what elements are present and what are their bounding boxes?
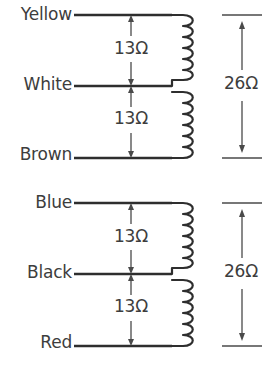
- coil-upper: [172, 203, 193, 274]
- lead-label-bottom: Brown: [0, 146, 72, 163]
- bracket-arrowhead-bottom: [239, 145, 245, 153]
- resistance-label-lower: 13Ω: [104, 110, 158, 127]
- resistance-label-upper: 13Ω: [104, 228, 158, 245]
- coil-lower: [172, 92, 193, 158]
- bracket-arrowhead-bottom: [239, 333, 245, 341]
- coil-group-blue-black-red: Blue Black Red 13Ω 13Ω 26Ω: [0, 188, 273, 363]
- bracket-arrowhead-top: [239, 21, 245, 29]
- coil-upper: [172, 15, 193, 86]
- resistance-label-total: 26Ω: [212, 75, 270, 92]
- lead-label-center-tap: Black: [0, 264, 72, 281]
- resistance-label-lower: 13Ω: [104, 298, 158, 315]
- bracket-arrowhead-top: [239, 209, 245, 217]
- coil-group-yellow-white-brown: Yellow White Brown 13Ω 13Ω 26Ω: [0, 0, 273, 175]
- resistance-label-upper: 13Ω: [104, 40, 158, 57]
- resistance-label-total: 26Ω: [212, 263, 270, 280]
- lead-label-bottom: Red: [0, 334, 72, 351]
- coil-lower: [172, 280, 193, 346]
- lead-label-top: Yellow: [0, 6, 72, 23]
- coil-resistance-diagram: Yellow White Brown 13Ω 13Ω 26Ω: [0, 0, 273, 369]
- lead-label-top: Blue: [0, 194, 72, 211]
- lead-label-center-tap: White: [0, 76, 72, 93]
